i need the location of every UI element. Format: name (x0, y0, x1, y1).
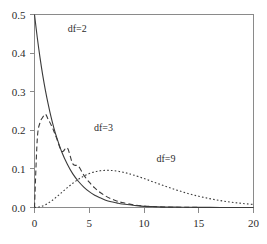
x-axis-tick-labels: 05101520 (32, 217, 260, 229)
y-tick-label: 0.0 (12, 202, 26, 214)
plot-frame (35, 15, 254, 208)
density-curves (35, 15, 254, 208)
y-tick-label: 0.4 (12, 47, 26, 59)
y-tick-label: 0.1 (12, 163, 26, 175)
y-tick-label: 0.2 (12, 124, 26, 136)
chart-canvas: 05101520 0.00.10.20.30.40.5 df=2df=3df=9 (0, 0, 267, 244)
curve-label-df2: df=2 (68, 23, 87, 34)
x-tick-label: 10 (139, 217, 151, 229)
x-tick-label: 15 (193, 217, 205, 229)
y-axis-tick-labels: 0.00.10.20.30.40.5 (12, 9, 26, 214)
density-curve-df2 (35, 15, 254, 208)
x-tick-label: 5 (87, 217, 93, 229)
density-curve-df3 (35, 114, 254, 207)
y-axis-tick-marks (30, 15, 35, 208)
x-axis-tick-marks (35, 208, 254, 213)
curve-annotations: df=2df=3df=9 (68, 23, 176, 164)
x-tick-label: 0 (32, 217, 38, 229)
y-tick-label: 0.5 (12, 9, 26, 21)
density-curve-df9 (35, 170, 254, 207)
x-tick-label: 20 (248, 217, 260, 229)
chi-squared-density-chart: 05101520 0.00.10.20.30.40.5 df=2df=3df=9 (0, 0, 267, 244)
y-tick-label: 0.3 (12, 86, 26, 98)
curve-label-df3: df=3 (94, 122, 113, 133)
axes (30, 15, 254, 213)
curve-label-df9: df=9 (156, 153, 175, 164)
